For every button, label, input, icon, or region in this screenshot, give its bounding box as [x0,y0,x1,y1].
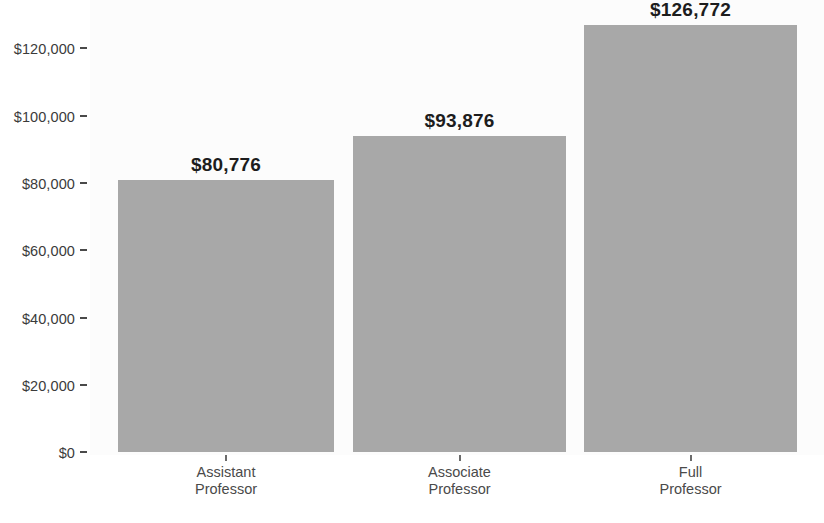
bar-chart: $80,776$93,876$126,772 $0$20,000$40,000$… [0,0,824,523]
y-axis-tick-label: $40,000 [22,311,75,327]
y-axis-tick: $60,000 [22,242,90,258]
x-axis: AssistantProfessorAssociateProfessorFull… [0,455,824,523]
y-axis-tick-mark [80,384,87,386]
x-axis-tick-label: Professor [584,481,797,498]
x-axis-tick-mark [459,455,461,461]
plot-panel: $80,776$93,876$126,772 [90,0,824,455]
x-axis-category: AssociateProfessor [353,455,566,498]
y-axis-tick: $40,000 [22,309,90,325]
y-axis-tick-mark [80,115,87,117]
y-axis-tick-mark [80,317,87,319]
x-axis-category: FullProfessor [584,455,797,498]
x-axis-category: AssistantProfessor [118,455,334,498]
x-axis-tick-label: Full [584,464,797,481]
y-axis-tick-mark [80,249,87,251]
y-axis-tick-label: $80,000 [22,176,75,192]
y-axis-tick: $100,000 [14,107,90,123]
y-axis-tick-label: $100,000 [14,109,75,125]
y-axis-tick-label: $20,000 [22,378,75,394]
y-axis-tick: $120,000 [14,40,90,56]
y-axis-tick: $20,000 [22,377,90,393]
x-axis-tick-mark [690,455,692,461]
y-axis-tick: $80,000 [22,175,90,191]
x-axis-tick-label: Assistant [118,464,334,481]
bar[interactable] [353,136,566,452]
y-axis: $0$20,000$40,000$60,000$80,000$100,000$1… [0,0,90,455]
y-axis-tick-mark [80,182,87,184]
y-axis-tick-label: $60,000 [22,243,75,259]
bar-value-label: $80,776 [118,154,334,176]
x-axis-tick-label: Professor [118,481,334,498]
bar[interactable] [118,180,334,452]
x-axis-tick-mark [225,455,227,461]
y-axis-tick-mark [80,451,87,453]
x-axis-tick-label: Associate [353,464,566,481]
y-axis-tick-mark [80,47,87,49]
bar-value-label: $93,876 [353,110,566,132]
x-axis-tick-label: Professor [353,481,566,498]
y-axis-tick-label: $120,000 [14,41,75,57]
bar-value-label: $126,772 [584,0,797,21]
bar[interactable] [584,25,797,452]
